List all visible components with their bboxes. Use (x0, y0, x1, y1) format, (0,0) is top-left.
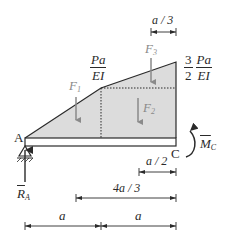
point-c-label: C (171, 147, 180, 160)
point-a-label: A (14, 131, 23, 144)
beam (25, 138, 176, 146)
f3-label: F3 (145, 42, 157, 57)
diagram-graphics (0, 0, 245, 247)
beam-moment-diagram: A C PaEI 32 PaEI F1 F2 F3 RA MC a / 3 a … (0, 0, 245, 247)
dim-a-over-3: a / 3 (152, 14, 173, 26)
dim-a-left: a (59, 209, 66, 222)
dim-4a-over-3: 4a / 3 (113, 182, 140, 194)
moment-right-value: 32 PaEI (184, 53, 212, 82)
moment-arc-icon (186, 131, 195, 157)
moment-c-label: MC (200, 137, 216, 152)
dim-a-over-2: a / 2 (146, 155, 167, 167)
f1-label: F1 (69, 79, 81, 94)
dim-a-right: a (135, 209, 142, 222)
reaction-label: RA (17, 187, 30, 202)
f2-label: F2 (143, 101, 155, 116)
moment-left-value: PaEI (90, 53, 106, 82)
